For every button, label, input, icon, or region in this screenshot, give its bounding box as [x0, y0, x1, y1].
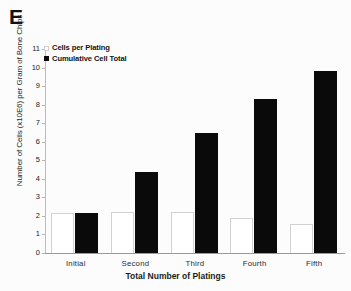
x-axis-tick-label: Fifth — [284, 259, 344, 268]
legend-label-cells-per-plating: Cells per Plating — [52, 43, 110, 54]
legend-item-cells-per-plating: Cells per Plating — [44, 43, 127, 54]
x-axis-tick-label: Fourth — [225, 259, 285, 268]
x-axis-tick-label: Initial — [46, 259, 106, 268]
chart-legend: Cells per Plating Cumulative Cell Total — [44, 43, 127, 64]
legend-swatch-open-icon — [44, 46, 49, 51]
bar-second-cumulative — [135, 172, 158, 253]
legend-item-cumulative-cell-total: Cumulative Cell Total — [44, 54, 127, 65]
y-axis-tick-label: 2 — [0, 212, 40, 220]
plot-area — [46, 49, 344, 253]
bar-second-per-plating — [111, 212, 134, 253]
y-axis-title: Number of Cells (x10E6) per Gram of Bone… — [15, 0, 24, 206]
bar-fifth-per-plating — [290, 224, 313, 253]
bar-initial-per-plating — [51, 213, 74, 253]
bar-fourth-per-plating — [230, 218, 253, 253]
bar-initial-cumulative — [75, 213, 98, 253]
figure-panel: E 01234567891011 Number of Cells (x10E6)… — [0, 0, 351, 291]
legend-label-cumulative-cell-total: Cumulative Cell Total — [52, 54, 127, 65]
bar-fourth-cumulative — [254, 99, 277, 253]
bar-fifth-cumulative — [314, 71, 337, 253]
y-axis-tick-label: 1 — [0, 230, 40, 238]
x-axis-title: Total Number of Platings — [0, 271, 351, 281]
x-axis-tick-label: Second — [106, 259, 166, 268]
bar-third-per-plating — [171, 212, 194, 253]
x-axis-tick-label: Third — [165, 259, 225, 268]
x-axis-line — [45, 253, 345, 254]
legend-swatch-filled-icon — [44, 56, 49, 61]
y-axis-tick-label: 0 — [0, 249, 40, 257]
bar-third-cumulative — [195, 133, 218, 253]
